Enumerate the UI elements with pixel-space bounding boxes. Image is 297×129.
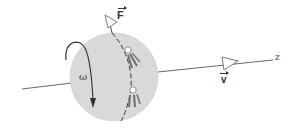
z-axis-line-right xyxy=(158,60,273,72)
diagram-canvas: ω F v z xyxy=(0,0,297,129)
diagram-svg xyxy=(0,0,297,129)
force-label: F xyxy=(117,10,124,21)
omega-label: ω xyxy=(79,72,87,82)
force-arrow-head xyxy=(105,15,117,28)
velocity-label: v xyxy=(221,75,227,85)
z-axis-line-left xyxy=(22,83,72,89)
z-axis-label: z xyxy=(275,53,280,62)
